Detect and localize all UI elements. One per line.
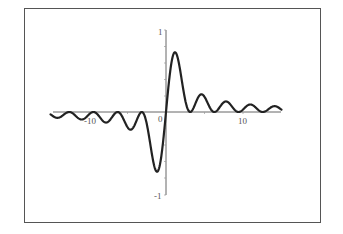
y-tick-label-neg1: -1	[154, 191, 162, 201]
x-tick-label-0: 0	[158, 114, 163, 124]
chart-plot: 1 -1 -10 0 10	[0, 0, 343, 234]
y-tick-label-1: 1	[158, 27, 163, 37]
x-tick-label-10: 10	[238, 116, 248, 126]
